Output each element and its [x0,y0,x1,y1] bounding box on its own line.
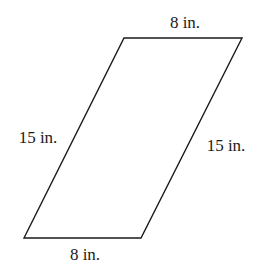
parallelogram-diagram: 8 in. 8 in. 15 in. 15 in. [0,0,260,268]
bottom-side-label: 8 in. [70,245,100,264]
top-side-label: 8 in. [170,13,200,32]
left-side-label: 15 in. [19,128,58,147]
right-side-label: 15 in. [207,136,246,155]
